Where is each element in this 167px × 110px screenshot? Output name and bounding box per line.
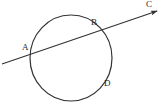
point-label-c: C xyxy=(146,0,152,9)
circle-shape xyxy=(30,15,112,101)
point-label-d: D xyxy=(104,79,111,88)
point-label-b: B xyxy=(91,18,97,27)
point-label-a: A xyxy=(22,43,29,52)
diagram-canvas xyxy=(0,0,167,110)
geometry-diagram: A B C D xyxy=(0,0,167,110)
secant-line xyxy=(2,11,157,64)
